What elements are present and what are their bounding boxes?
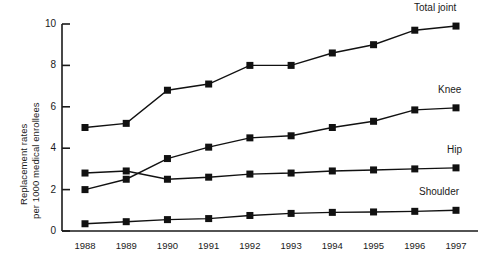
y-tick-label-4: 4 [38,142,56,153]
x-tick-label-1995: 1995 [354,240,394,251]
y-tick-label-8: 8 [38,59,56,70]
x-tick-label-1992: 1992 [230,240,270,251]
data-point-knee-1989 [123,176,130,183]
data-point-knee-1988 [82,186,89,193]
series-label-hip: Hip [447,144,462,155]
chart-series [82,23,460,228]
data-point-knee-1993 [288,132,295,139]
data-point-knee-1990 [164,155,171,162]
x-tick-label-1990: 1990 [147,240,187,251]
y-tick-label-2: 2 [38,184,56,195]
x-tick-label-1993: 1993 [271,240,311,251]
data-point-hip-1995 [370,166,377,173]
data-point-shoulder-1989 [123,218,130,225]
data-point-knee-1992 [246,134,253,141]
data-point-knee-1994 [329,124,336,131]
data-point-total-joint-1997 [453,23,460,30]
data-point-hip-1991 [205,174,212,181]
x-tick-label-1997: 1997 [436,240,476,251]
x-tick-label-1991: 1991 [189,240,229,251]
data-point-hip-1997 [453,164,460,171]
x-tick-label-1988: 1988 [65,240,105,251]
data-point-shoulder-1993 [288,210,295,217]
data-point-knee-1997 [453,104,460,111]
data-point-total-joint-1991 [205,81,212,88]
data-point-knee-1995 [370,118,377,125]
y-tick-label-10: 10 [38,18,56,29]
chart-axes [62,24,478,231]
y-axis-title-line-2: per 1000 medical enrollees [30,102,42,219]
y-tick-label-0: 0 [38,225,56,236]
y-axis-title-line-1: Replacement rates [18,124,30,205]
series-label-knee: Knee [438,84,461,95]
series-line-shoulder [85,210,456,223]
data-point-total-joint-1988 [82,124,89,131]
data-point-total-joint-1990 [164,87,171,94]
data-point-total-joint-1994 [329,49,336,56]
data-point-shoulder-1990 [164,216,171,223]
line-chart-plot [0,0,496,259]
data-point-hip-1993 [288,170,295,177]
series-line-knee [85,108,456,190]
data-point-shoulder-1997 [453,207,460,214]
series-label-shoulder: Shoulder [419,186,459,197]
data-point-hip-1989 [123,167,130,174]
x-tick-label-1994: 1994 [312,240,352,251]
data-point-total-joint-1993 [288,62,295,69]
data-point-knee-1996 [411,106,418,113]
data-point-total-joint-1996 [411,27,418,34]
data-point-shoulder-1994 [329,209,336,216]
series-line-total-joint [85,26,456,127]
series-line-hip [85,168,456,179]
y-tick-label-6: 6 [38,101,56,112]
data-point-total-joint-1989 [123,120,130,127]
data-point-shoulder-1992 [246,212,253,219]
data-point-total-joint-1995 [370,41,377,48]
data-point-hip-1992 [246,171,253,178]
data-point-hip-1988 [82,170,89,177]
data-point-hip-1994 [329,167,336,174]
series-label-total-joint: Total joint [414,2,456,13]
data-point-shoulder-1988 [82,220,89,227]
data-point-hip-1996 [411,165,418,172]
data-point-shoulder-1995 [370,208,377,215]
x-tick-label-1989: 1989 [106,240,146,251]
x-tick-label-1996: 1996 [395,240,435,251]
data-point-knee-1991 [205,144,212,151]
data-point-hip-1990 [164,176,171,183]
y-axis-title: Replacement rates per 1000 medical enrol… [7,0,47,259]
data-point-total-joint-1992 [246,62,253,69]
chart-figure: Replacement rates per 1000 medical enrol… [0,0,496,259]
data-point-shoulder-1991 [205,215,212,222]
data-point-shoulder-1996 [411,208,418,215]
